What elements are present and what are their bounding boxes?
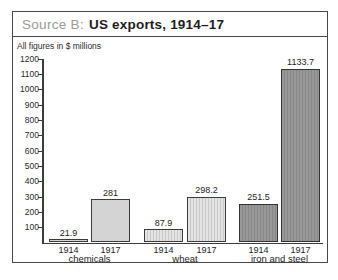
figure: Source B: US exports, 1914–17 All figure… (0, 0, 338, 280)
bar-value-label: 298.2 (177, 185, 237, 196)
bar-value-label: 281 (81, 188, 141, 199)
bar-value-label: 87.9 (134, 218, 194, 229)
y-tick-label: 800 (13, 115, 39, 125)
bar-value-label: 21.9 (39, 228, 99, 239)
title-prefix: Source B: (22, 17, 84, 32)
figure-frame: Source B: US exports, 1914–17 All figure… (12, 11, 328, 263)
y-axis-line (42, 59, 44, 244)
bar-wheat-1914 (144, 229, 183, 242)
y-tick-label: 600 (13, 146, 39, 156)
bar-iron-and-steel-1917 (281, 69, 320, 243)
y-tick-label: 1000 (13, 84, 39, 94)
y-tick-label: 400 (13, 176, 39, 186)
group-label-wheat: wheat (140, 254, 230, 264)
y-tick-label: 700 (13, 130, 39, 140)
bar-chemicals-1917 (91, 199, 130, 242)
y-tick-label: 1100 (13, 69, 39, 79)
group-label-chemicals: chemicals (45, 254, 135, 264)
bar-wheat-1917 (187, 197, 226, 243)
chart-area: All figures in $ millions 10020030040050… (13, 37, 327, 260)
y-tick-label: 100 (13, 222, 39, 232)
title-bar: Source B: US exports, 1914–17 (13, 12, 327, 37)
y-tick-label: 300 (13, 192, 39, 202)
y-tick-label: 200 (13, 207, 39, 217)
bar-value-label: 251.5 (229, 192, 289, 203)
chart-subtitle: All figures in $ millions (17, 41, 101, 51)
bar-chemicals-1914 (49, 239, 88, 242)
y-tick-label: 500 (13, 161, 39, 171)
bar-value-label: 1133.7 (271, 57, 331, 68)
y-tick-label: 1200 (13, 54, 39, 64)
x-axis-line (42, 243, 323, 245)
page-title: US exports, 1914–17 (89, 17, 224, 32)
bar-iron-and-steel-1914 (239, 204, 278, 243)
y-tick-label: 900 (13, 100, 39, 110)
group-label-iron-and-steel: iron and steel (235, 254, 325, 264)
